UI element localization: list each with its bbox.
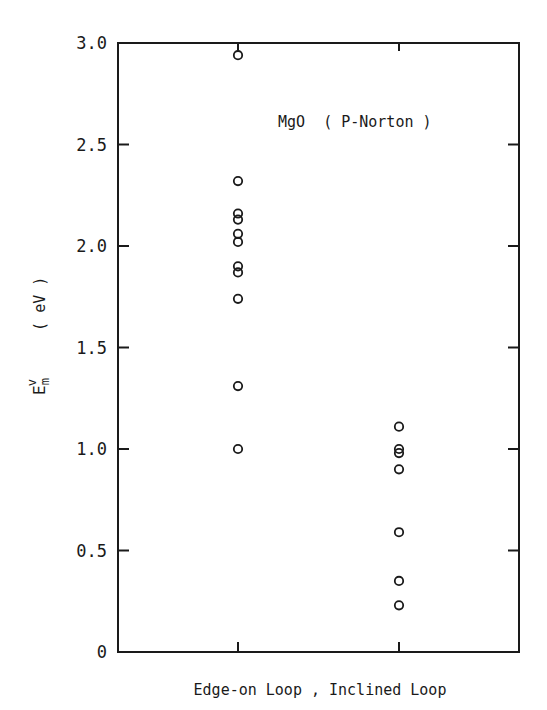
y-tick-label: 1.5 [76, 338, 107, 358]
y-tick-label: 0 [97, 642, 107, 662]
data-point [234, 382, 242, 390]
y-tick-label: 1.0 [76, 439, 107, 459]
data-point [234, 177, 242, 185]
data-point [234, 445, 242, 453]
plot-border [118, 43, 519, 652]
data-point [395, 422, 403, 430]
y-label-subscript: m [38, 378, 52, 385]
y-tick-label: 3.0 [76, 33, 107, 53]
plot-frame [118, 43, 519, 652]
data-point [395, 577, 403, 585]
data-point [234, 238, 242, 246]
data-point [234, 230, 242, 238]
data-point [234, 215, 242, 223]
y-tick-label: 2.5 [76, 135, 107, 155]
data-point [395, 528, 403, 536]
data-point [395, 601, 403, 609]
y-tick-label: 0.5 [76, 541, 107, 561]
x-axis-ticks [238, 43, 399, 652]
data-point [234, 51, 242, 59]
data-points [234, 51, 403, 610]
chart-annotation: MgO ( P-Norton ) [278, 113, 432, 131]
y-label-unit: ( eV ) [31, 277, 49, 331]
y-axis-label: Emv( eV ) [25, 277, 52, 395]
y-tick-label: 2.0 [76, 236, 107, 256]
svg-text:Emv( eV ): Emv( eV ) [25, 277, 52, 395]
data-point [234, 295, 242, 303]
data-point [395, 465, 403, 473]
scatter-chart: 00.51.01.52.02.53.0 MgO ( P-Norton ) Edg… [0, 0, 547, 710]
x-axis-label: Edge-on Loop , Inclined Loop [194, 681, 447, 699]
data-point [234, 268, 242, 276]
y-label-superscript: v [25, 379, 39, 386]
